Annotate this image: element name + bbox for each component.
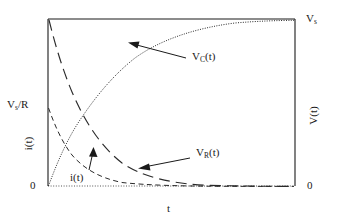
y-right-axis-title: V(t) (308, 101, 319, 131)
y-right-top-tick-label-v: V (306, 12, 314, 24)
annotation-arrow-vr (138, 158, 190, 171)
annotation-label-it: i(t) (70, 172, 83, 183)
y-left-top-tick-label: Vs/R (7, 99, 28, 111)
x-axis-title: t (167, 203, 170, 214)
y-right-top-tick-label: Vs (306, 13, 317, 25)
y-left-axis-title: i(t) (23, 131, 34, 157)
annotation-label-vr: VR(t) (196, 147, 219, 159)
figure-canvas: Vs/R i(t) 0 Vs V(t) 0 t VC(t) VR(t) i(t) (0, 0, 337, 224)
y-right-bottom-tick-label: 0 (307, 180, 313, 191)
axis-frame (48, 19, 295, 186)
annotation-label-vr-main: V (196, 146, 204, 158)
annotation-arrow-vc (128, 42, 186, 59)
annotation-label-vc: VC(t) (192, 51, 215, 63)
curve-vc (49, 20, 295, 186)
y-right-top-tick-label-sub: s (314, 17, 317, 26)
plot-svg (0, 0, 337, 224)
annotation-label-vc-tail: (t) (205, 50, 215, 62)
y-left-top-tick-label-suffix: /R (18, 98, 28, 110)
y-left-bottom-tick-label: 0 (30, 180, 36, 191)
annotation-label-vc-main: V (192, 50, 200, 62)
annotation-label-vr-tail: (t) (209, 146, 219, 158)
y-left-top-tick-label-v: V (7, 98, 15, 110)
annotation-arrow-it (89, 147, 98, 170)
